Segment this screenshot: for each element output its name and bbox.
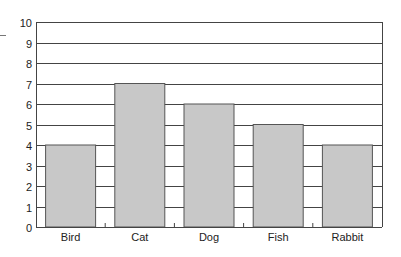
bar-chart: 012345678910BirdCatDogFishRabbit: [0, 0, 401, 257]
y-tick-label: 5: [26, 120, 32, 132]
bar-bird: [46, 145, 96, 227]
x-tick-label: Fish: [268, 231, 289, 243]
y-tick-label: 3: [26, 161, 32, 173]
x-tick-label: Rabbit: [332, 231, 364, 243]
y-tick-label: 9: [26, 38, 32, 50]
y-tick-label: 1: [26, 202, 32, 214]
y-tick-label: 0: [26, 222, 32, 234]
y-tick-label: 8: [26, 58, 32, 70]
x-tick-label: Dog: [199, 231, 219, 243]
y-tick-label: 6: [26, 99, 32, 111]
bar-dog: [184, 104, 234, 227]
bar-rabbit: [322, 145, 372, 227]
bar-cat: [115, 84, 165, 228]
y-tick-label: 10: [20, 17, 32, 29]
x-tick-label: Cat: [131, 231, 148, 243]
y-tick-label: 4: [26, 140, 32, 152]
x-tick-label: Bird: [61, 231, 81, 243]
bar-fish: [253, 125, 303, 228]
y-tick-label: 7: [26, 79, 32, 91]
y-tick-label: 2: [26, 181, 32, 193]
